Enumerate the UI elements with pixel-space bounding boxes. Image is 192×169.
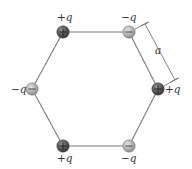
charge-left <box>26 83 38 95</box>
label-left: −q <box>11 83 27 95</box>
label-top-right: −q <box>121 11 137 23</box>
label-bottom-right: −q <box>121 152 137 164</box>
charge-bottom-right <box>123 140 135 152</box>
dimension-label-a: a <box>155 44 161 56</box>
charge-top-left <box>57 26 69 38</box>
label-top-left: +q <box>57 11 73 23</box>
edge-bottom-right <box>129 89 158 146</box>
hexagon-edges <box>32 32 158 146</box>
charge-right <box>152 83 164 95</box>
edge-top-left <box>32 32 63 89</box>
tick-bottom <box>171 78 179 82</box>
tick-top <box>141 22 149 26</box>
hexagon-charge-diagram: a +q −q +q −q <box>0 0 192 169</box>
charge-bottom-left <box>57 140 69 152</box>
edge-bottom-left <box>32 89 63 146</box>
label-bottom-left: +q <box>57 152 73 164</box>
charge-top-right <box>123 26 135 38</box>
label-right: +q <box>165 83 181 95</box>
